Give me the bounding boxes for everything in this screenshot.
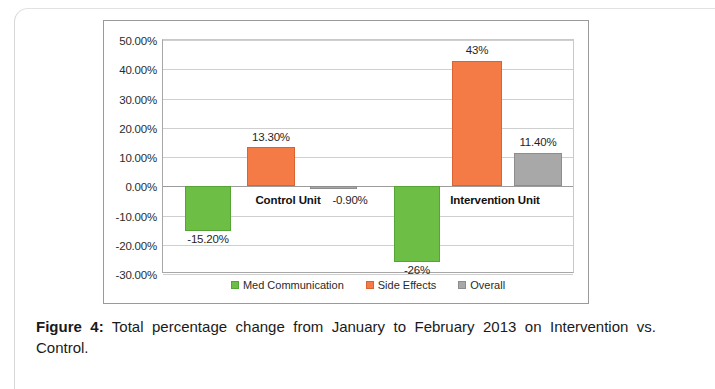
bar-label-control-med-communication: -15.20% — [187, 233, 228, 245]
bar-intervention-med-communication — [394, 186, 440, 262]
legend-swatch-gray-icon — [458, 281, 466, 289]
ytick-label-10: 10.00% — [119, 152, 157, 164]
chart-figure: 50.00% 40.00% 30.00% 20.00% 10.00% 0.00%… — [103, 20, 589, 304]
bar-intervention-side-effects — [452, 61, 502, 187]
bar-label-control-overall: -0.90% — [332, 194, 367, 206]
ytick-label-40: 40.00% — [119, 64, 157, 76]
legend-label-overall: Overall — [470, 279, 505, 291]
figure-caption-label: Figure 4: — [36, 318, 104, 335]
ytick-label-minus-20: -20.00% — [116, 240, 157, 252]
ytick-label-20: 20.00% — [119, 123, 157, 135]
bar-control-med-communication — [185, 186, 231, 231]
ytick-label-50: 50.00% — [119, 35, 157, 47]
figure-caption: Figure 4: Total percentage change from J… — [36, 316, 656, 358]
plot-area: 50.00% 40.00% 30.00% 20.00% 10.00% 0.00%… — [162, 39, 574, 273]
gridline-50: 50.00% — [163, 40, 573, 41]
bar-label-intervention-med-communication: -26% — [404, 264, 430, 276]
ytick-label-0: 0.00% — [125, 181, 157, 193]
gridline-10: 10.00% — [163, 157, 573, 158]
gridline-20: 20.00% — [163, 128, 573, 129]
bar-intervention-overall — [514, 153, 562, 186]
ytick-label-30: 30.00% — [119, 94, 157, 106]
legend-entry-overall: Overall — [458, 279, 505, 291]
gridline-minus-30: -30.00% — [163, 274, 573, 275]
legend-label-med-communication: Med Communication — [243, 279, 344, 291]
figure-caption-text: Total percentage change from January to … — [36, 318, 656, 356]
chart-legend: Med Communication Side Effects Overall — [162, 279, 574, 291]
bar-control-side-effects — [247, 147, 295, 186]
gridline-30: 30.00% — [163, 99, 573, 100]
ytick-label-minus-30: -30.00% — [116, 269, 157, 281]
gridline-40: 40.00% — [163, 69, 573, 70]
legend-label-side-effects: Side Effects — [378, 279, 437, 291]
group-label-intervention-unit: Intervention Unit — [450, 194, 540, 206]
legend-swatch-orange-icon — [366, 281, 374, 289]
bar-label-intervention-side-effects: 43% — [466, 44, 488, 56]
bar-label-intervention-overall: 11.40% — [520, 136, 557, 148]
legend-entry-med-communication: Med Communication — [231, 279, 344, 291]
legend-swatch-green-icon — [231, 281, 239, 289]
ytick-label-minus-10: -10.00% — [116, 211, 157, 223]
bar-control-overall — [310, 186, 357, 189]
group-label-control-unit: Control Unit — [255, 194, 320, 206]
legend-entry-side-effects: Side Effects — [366, 279, 437, 291]
bar-label-control-side-effects: 13.30% — [252, 131, 290, 143]
